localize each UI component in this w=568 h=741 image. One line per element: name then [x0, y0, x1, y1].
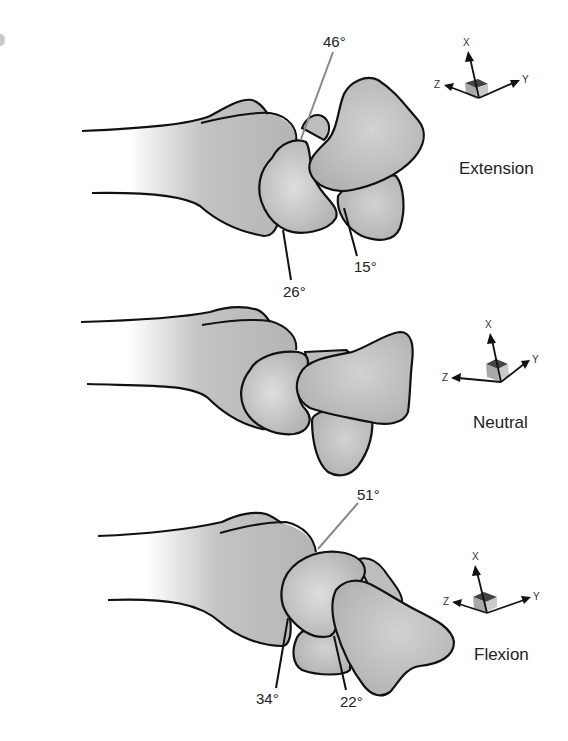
angle-label-34: 34°	[256, 690, 279, 707]
figure-artwork	[0, 0, 568, 741]
leader-26	[283, 230, 291, 280]
position-label-neutral: Neutral	[473, 413, 528, 433]
angle-label-15: 15°	[354, 258, 377, 275]
axis-x-label: X	[463, 38, 470, 48]
axis-x-label: X	[485, 320, 492, 330]
position-label-extension: Extension	[459, 159, 534, 179]
axis-triad-extension	[444, 51, 520, 99]
wrist-rotation-figure: 46° 26° 15° X Z Y Extension X Z Y Neutra…	[0, 0, 568, 741]
axis-z-label: Z	[443, 597, 449, 607]
axis-y-label: Y	[533, 592, 540, 602]
leader-51	[318, 503, 358, 549]
panel-neutral-bones	[81, 307, 413, 475]
panel-extension-bones	[82, 52, 424, 280]
axis-triad-neutral	[451, 333, 530, 382]
angle-label-26: 26°	[283, 283, 306, 300]
axis-y-label: Y	[522, 75, 529, 85]
panel-flexion-bones	[98, 503, 454, 695]
axis-z-label: Z	[434, 80, 440, 90]
axis-y-label: Y	[532, 355, 539, 365]
angle-label-46: 46°	[323, 33, 346, 50]
axis-z-label: Z	[442, 373, 448, 383]
angle-label-51: 51°	[357, 486, 380, 503]
capitate	[332, 581, 454, 696]
angle-label-22: 22°	[340, 693, 363, 710]
position-label-flexion: Flexion	[474, 645, 529, 665]
axis-x-label: X	[472, 552, 479, 562]
capitate	[297, 332, 413, 424]
axis-triad-flexion	[452, 565, 531, 613]
